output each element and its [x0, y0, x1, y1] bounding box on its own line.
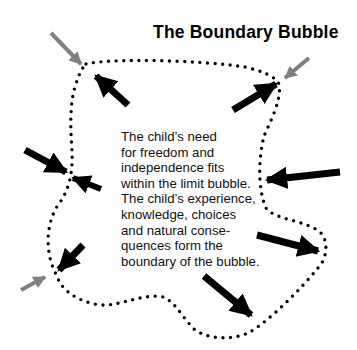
outward-arrow-bottom	[204, 276, 251, 315]
inward-arrow-left	[73, 178, 101, 189]
external-arrow-top-right	[285, 58, 309, 78]
outward-arrow-left	[25, 150, 66, 172]
outward-arrow-right	[257, 235, 318, 251]
description-text: The child’s need for freedom and indepen…	[121, 129, 260, 269]
outward-arrow-top-right	[233, 84, 276, 110]
inward-arrow-right	[267, 172, 340, 180]
outward-arrow-top-left	[96, 76, 128, 105]
diagram-title: The Boundary Bubble	[153, 22, 339, 43]
external-arrow-top-left	[51, 33, 81, 64]
outward-arrow-bottom-left	[59, 245, 83, 270]
external-arrow-bottom-left	[21, 277, 45, 290]
